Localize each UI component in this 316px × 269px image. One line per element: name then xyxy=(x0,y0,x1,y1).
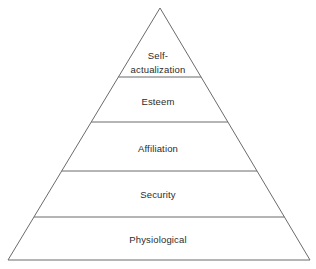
pyramid-outline-svg xyxy=(0,0,316,269)
pyramid-diagram: Self- actualization Esteem Affiliation S… xyxy=(0,0,316,269)
pyramid-outline xyxy=(8,8,310,260)
